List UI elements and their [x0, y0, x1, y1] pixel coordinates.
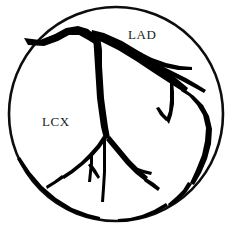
artery-label-lad: LAD [128, 27, 157, 42]
figure-canvas: LADLCX [0, 0, 234, 234]
artery-label-lcx: LCX [42, 114, 70, 129]
coronary-artery-diagram: LADLCX [0, 0, 234, 234]
